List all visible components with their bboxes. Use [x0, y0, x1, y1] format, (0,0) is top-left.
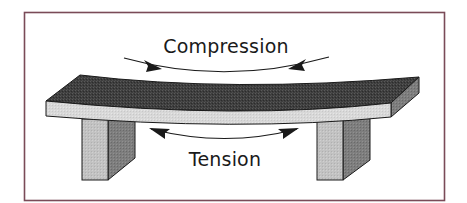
tension-label: Tension: [189, 150, 261, 169]
compression-label: Compression: [163, 37, 289, 56]
beam-bending-diagram: Compression Tension: [0, 0, 467, 203]
right-support-front: [317, 118, 343, 180]
diagram-canvas: [0, 0, 467, 203]
left-support-front: [82, 119, 108, 180]
